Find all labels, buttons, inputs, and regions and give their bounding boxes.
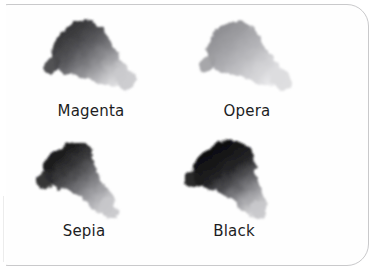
ink-blob-sepia <box>6 136 156 222</box>
swatch-label-black: Black <box>162 222 312 240</box>
swatch-cell-opera[interactable]: Opera <box>180 16 330 138</box>
ink-blob-opera <box>180 16 330 102</box>
swatch-label-magenta: Magenta <box>22 102 172 120</box>
ink-blob-black <box>162 136 312 222</box>
swatch-label-sepia: Sepia <box>6 222 156 240</box>
swatch-cell-black[interactable]: Black <box>162 136 312 258</box>
swatch-cell-sepia[interactable]: Sepia <box>6 136 156 258</box>
ink-blob-magenta <box>22 16 172 102</box>
swatch-grid: Magenta <box>0 0 384 274</box>
swatch-cell-magenta[interactable]: Magenta <box>22 16 172 138</box>
swatch-label-opera: Opera <box>180 102 330 120</box>
screenshot-root: Magenta <box>0 0 384 274</box>
